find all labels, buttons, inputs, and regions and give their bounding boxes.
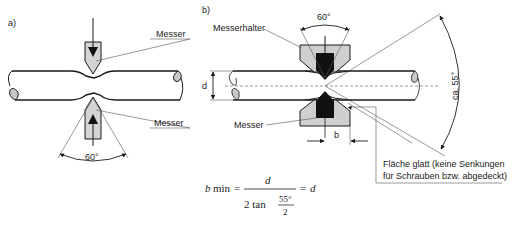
formula-rhs: d (310, 182, 316, 194)
pipe-a (8, 71, 182, 100)
note-line1: Fläche glatt (keine Senkungen (383, 159, 505, 169)
formula-eq2: = (300, 182, 306, 194)
width-label: b (334, 130, 339, 140)
knife-bottom-a (85, 97, 101, 146)
diagram-canvas: a) Messer Messer (0, 0, 513, 229)
knife-top-label-a: Messer (156, 29, 186, 39)
panel-b-label: b) (202, 5, 210, 15)
formula: b min = d 2 tan 55° 2 = d (205, 174, 316, 217)
angle-label-a: 60° (85, 152, 99, 162)
formula-frac-den: 2 (283, 207, 288, 217)
formula-lhs-sub: min (213, 182, 231, 194)
angle-top-label-b: 60° (317, 12, 331, 22)
diameter-label: d (202, 81, 207, 91)
panel-a-label: a) (8, 18, 16, 28)
knife-label-b: Messer (234, 120, 264, 130)
formula-numerator: d (265, 174, 271, 186)
panel-b: b) d 60° (202, 5, 507, 183)
note-line2: für Schrauben bzw. abgedeckt) (383, 171, 507, 181)
knife-holder-bottom-b (300, 91, 352, 138)
formula-frac-num: 55° (279, 194, 292, 204)
panel-a: a) Messer Messer (8, 18, 190, 162)
formula-lhs-var: b (205, 182, 211, 194)
knife-bottom-label-a: Messer (154, 118, 184, 128)
angle-side-label-b: ca. 55° (450, 71, 460, 100)
knife-top-a (85, 18, 101, 74)
formula-eq1: = (234, 182, 240, 194)
holder-label: Messerhalter (213, 23, 265, 33)
formula-denominator-prefix: 2 tan (244, 198, 266, 210)
